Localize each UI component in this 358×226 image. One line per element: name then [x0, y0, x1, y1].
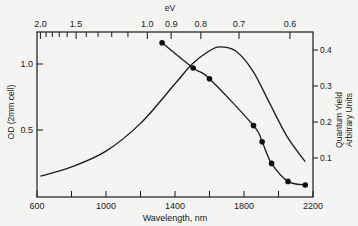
left-tick-label: 0.5: [20, 125, 33, 135]
top-tick-label: 0.9: [165, 19, 178, 29]
top-tick-label: 0.6: [284, 19, 297, 29]
quantum-yield-markers: [159, 40, 308, 188]
data-point: [259, 139, 265, 145]
data-point: [207, 76, 213, 82]
data-point: [285, 179, 291, 185]
x-tick-label: 2200: [303, 201, 323, 211]
data-point: [159, 40, 165, 46]
chart: 60010001400180022002.01.51.00.90.80.70.6…: [0, 0, 358, 226]
x-tick-label: 600: [29, 201, 44, 211]
right-tick-label: 0.3: [320, 81, 332, 91]
data-point: [269, 161, 275, 167]
x-tick-label: 1000: [96, 201, 116, 211]
data-point: [190, 65, 196, 71]
top-tick-label: 0.7: [233, 19, 246, 29]
right-tick-label: 0.1: [320, 153, 332, 163]
x-tick-label: 1800: [234, 201, 254, 211]
right-axis-title-line1: Quantum Yield: [334, 92, 344, 148]
top-tick-label: 2.0: [34, 19, 47, 29]
top-tick-label: 1.5: [70, 19, 83, 29]
right-axis-title-line2: Arbitrary Units: [344, 93, 354, 147]
quantum-yield-curve: [162, 43, 305, 185]
left-axis-title: OD (2mm cell): [6, 84, 16, 139]
top-axis-title: eV: [165, 3, 176, 13]
left-tick-label: 1.0: [20, 59, 33, 69]
od-curve: [40, 47, 305, 176]
right-tick-label: 0.2: [320, 117, 332, 127]
right-tick-label: 0.4: [320, 45, 332, 55]
top-tick-label: 0.8: [195, 19, 208, 29]
x-tick-label: 1400: [165, 201, 185, 211]
plot-frame: [37, 32, 313, 197]
data-point: [302, 182, 308, 188]
x-axis-title: Wavelength, nm: [143, 213, 208, 223]
data-point: [251, 123, 257, 129]
top-tick-label: 1.0: [141, 19, 154, 29]
